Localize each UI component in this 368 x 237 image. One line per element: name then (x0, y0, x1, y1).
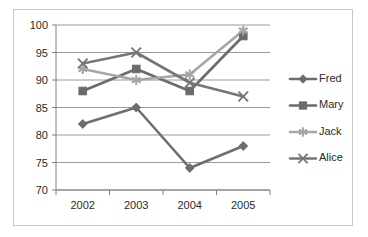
x-tick-label-2003: 2003 (124, 199, 148, 211)
y-tick-label-85: 85 (36, 102, 48, 114)
legend-marker-square-icon (299, 102, 306, 109)
datapoint-mary-2003 (132, 65, 140, 73)
axes (52, 25, 270, 195)
series-line-jack (83, 31, 244, 81)
y-tick-label-90: 90 (36, 74, 48, 86)
datapoint-fred-2005 (239, 142, 248, 151)
legend: FredMaryJackAlice (290, 72, 344, 164)
line-chart: 707580859095100 2002200320042005 FredMar… (0, 0, 368, 237)
y-tick-label-70: 70 (36, 184, 48, 196)
y-tick-label-95: 95 (36, 47, 48, 59)
series-markers-mary (79, 32, 247, 95)
legend-label-mary: Mary (319, 98, 344, 110)
y-tick-label-80: 80 (36, 129, 48, 141)
series-line-mary (83, 36, 244, 91)
x-tick-label-2005: 2005 (231, 199, 255, 211)
legend-label-jack: Jack (319, 125, 342, 137)
datapoint-mary-2004 (186, 87, 194, 95)
x-axis-tick-labels: 2002200320042005 (71, 199, 256, 211)
legend-item-mary[interactable]: Mary (290, 98, 344, 110)
y-tick-label-100: 100 (30, 19, 48, 31)
chart-figure: 707580859095100 2002200320042005 FredMar… (0, 0, 368, 237)
legend-label-alice: Alice (319, 151, 343, 163)
x-tick-label-2004: 2004 (178, 199, 202, 211)
series-lines (83, 31, 244, 169)
legend-item-fred[interactable]: Fred (290, 72, 342, 84)
series-line-fred (83, 108, 244, 169)
legend-marker-diamond-icon (299, 75, 307, 83)
datapoint-mary-2002 (79, 87, 87, 95)
x-tick-label-2002: 2002 (71, 199, 95, 211)
y-tick-label-75: 75 (36, 157, 48, 169)
legend-item-jack[interactable]: Jack (290, 125, 342, 137)
gridlines (56, 25, 270, 190)
legend-label-fred: Fred (319, 72, 342, 84)
datapoint-fred-2002 (78, 120, 87, 129)
legend-item-alice[interactable]: Alice (290, 151, 343, 163)
y-axis-tick-labels: 707580859095100 (30, 19, 48, 196)
